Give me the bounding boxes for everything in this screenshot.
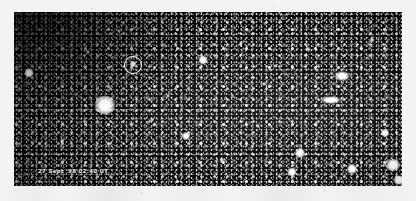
faint-star-l — [273, 64, 277, 68]
star-grain-layer-4 — [14, 12, 402, 186]
timestamp-caption: 27 Sept '98 02:40 UT — [38, 169, 108, 174]
faint-star-a — [306, 47, 311, 52]
bright-star-lower-mid — [182, 132, 190, 140]
faint-star-f — [60, 139, 64, 143]
bright-star-brightest — [95, 96, 116, 115]
faint-star-d — [166, 94, 170, 98]
faint-star-j — [256, 124, 260, 128]
sky-vignette — [14, 12, 402, 186]
faint-star-h — [370, 38, 375, 43]
star-grain-layer-1 — [14, 12, 402, 186]
faint-star-k — [86, 50, 90, 54]
target-object-circle-annotation — [124, 56, 142, 74]
bright-star-upper-right — [333, 70, 351, 82]
bright-star-bottom-edge — [288, 168, 297, 177]
bright-star-bottom-left-of-right — [295, 148, 305, 158]
bright-star-left — [25, 69, 34, 78]
star-grain-layer-5 — [14, 12, 402, 186]
star-grain-layer-2 — [14, 12, 402, 186]
bright-star-corner-edge — [393, 176, 402, 185]
faint-star-b — [262, 82, 266, 86]
faint-star-c — [239, 41, 243, 45]
star-grain-layer-7 — [14, 12, 402, 186]
elongated-object-right — [319, 96, 343, 105]
paper-smudge-band — [0, 186, 416, 201]
faint-star-i — [150, 118, 154, 122]
bright-star-upper-mid — [199, 56, 208, 65]
faint-star-e — [117, 29, 121, 33]
faint-star-g — [220, 158, 225, 163]
bright-star-bottom-right-corner — [386, 159, 401, 171]
bright-star-far-right — [381, 129, 389, 137]
star-grain-layer-3 — [14, 12, 402, 186]
astronomical-photograph: 27 Sept '98 02:40 UT — [14, 12, 402, 186]
star-grain-layer-6 — [14, 12, 402, 186]
sky-illumination-gradient — [14, 12, 402, 186]
scanned-page: 27 Sept '98 02:40 UT — [0, 0, 416, 201]
bright-star-bottom-mid-right — [347, 164, 357, 174]
